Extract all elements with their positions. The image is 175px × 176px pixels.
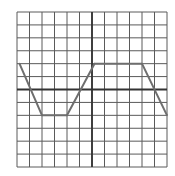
data-point — [41, 115, 43, 117]
axes — [17, 12, 167, 167]
data-point — [141, 63, 143, 65]
data-point — [19, 63, 21, 65]
data-point — [166, 115, 168, 117]
waveform-plot — [0, 0, 175, 176]
data-point — [94, 63, 96, 65]
data-point — [66, 115, 68, 117]
